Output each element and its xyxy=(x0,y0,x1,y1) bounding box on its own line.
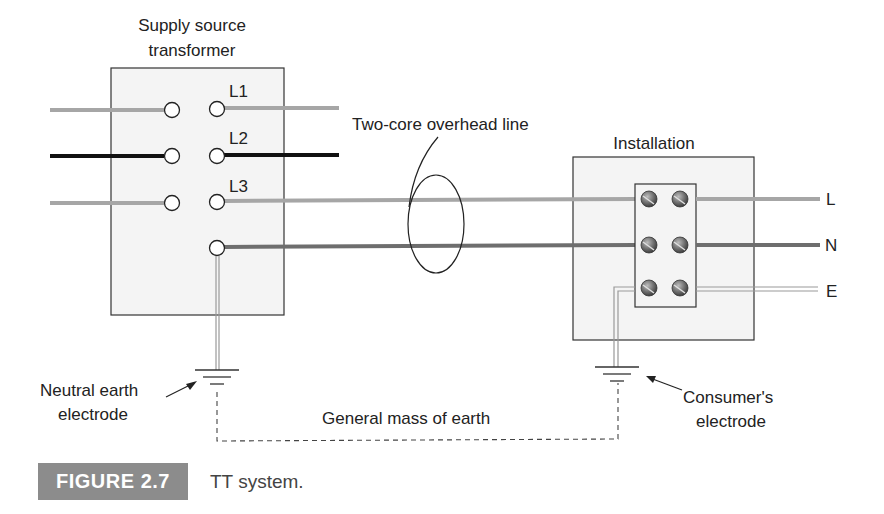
earth-symbol-neutral xyxy=(195,370,239,384)
arrow-neutral-electrode xyxy=(166,381,197,397)
neutral-electrode-label-1: Neutral earth xyxy=(40,381,138,400)
terminal-primary-3 xyxy=(165,196,180,211)
neutral-electrode-label-2: electrode xyxy=(58,405,128,424)
terminal-neutral xyxy=(210,241,225,256)
terminal-primary-1 xyxy=(165,103,180,118)
arrow-consumer-electrode xyxy=(646,376,682,390)
consumer-electrode-label-2: electrode xyxy=(696,412,766,431)
figure-number-badge: FIGURE 2.7 xyxy=(38,463,188,500)
terminal-primary-2 xyxy=(165,149,180,164)
output-label-l: L xyxy=(826,190,835,209)
overhead-line-ellipse xyxy=(408,175,464,273)
installation-label: Installation xyxy=(613,134,694,153)
supply-source-label-1: Supply source xyxy=(138,16,246,35)
label-l2: L2 xyxy=(229,129,248,148)
figure-caption: TT system. xyxy=(210,463,304,500)
terminal-l2 xyxy=(210,149,225,164)
line-l3-overhead xyxy=(224,199,637,201)
output-label-e: E xyxy=(826,282,837,301)
terminal-l3 xyxy=(210,195,225,210)
screw-icon xyxy=(641,191,657,207)
overhead-line-label: Two-core overhead line xyxy=(352,115,529,134)
screw-icon xyxy=(672,237,688,253)
screw-icon xyxy=(641,280,657,296)
screw-icon xyxy=(672,191,688,207)
label-l1: L1 xyxy=(229,82,248,101)
screw-icon xyxy=(672,280,688,296)
consumer-electrode-label-1: Consumer's xyxy=(683,388,773,407)
tt-system-diagram: Supply source transformer L1 L2 L3 Two-c… xyxy=(0,0,884,514)
label-l3: L3 xyxy=(229,177,248,196)
output-label-n: N xyxy=(825,236,837,255)
supply-source-label-2: transformer xyxy=(149,41,236,60)
screw-icon xyxy=(641,237,657,253)
terminal-l1 xyxy=(210,102,225,117)
transformer-box xyxy=(111,68,284,315)
mass-of-earth-label: General mass of earth xyxy=(322,409,490,428)
line-neutral-overhead xyxy=(224,245,637,247)
earth-symbol-consumer xyxy=(595,367,639,381)
